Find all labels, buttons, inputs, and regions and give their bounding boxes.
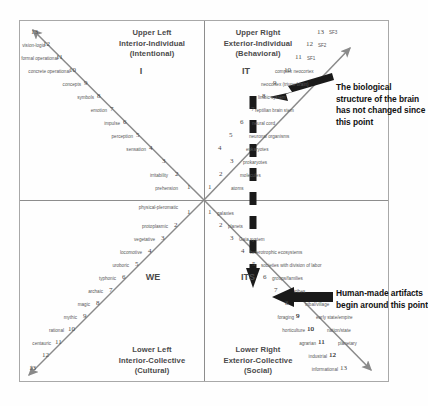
ur-label-neuronal-organisms: neuronal organisms xyxy=(249,134,289,139)
ul-num-8: 8 xyxy=(97,92,101,100)
lr-left-label-horticulture: horticulture xyxy=(237,328,305,333)
lr-num-7: 7 xyxy=(274,286,278,294)
ll-num-8: 8 xyxy=(96,299,100,307)
ul-label-vision-logic: vision-logic xyxy=(0,43,45,48)
ll-num-7: 7 xyxy=(109,286,113,294)
ll-label-locomotive: locomotive xyxy=(64,250,142,255)
lr-label-early-state-empire: early state/empire xyxy=(316,315,353,320)
ur-num-6: 6 xyxy=(240,118,244,126)
quadrant-pronoun-it: IT xyxy=(234,66,258,76)
ur-label-sf3: SF3 xyxy=(329,30,337,35)
ur-label-sf2: SF2 xyxy=(318,43,326,48)
ur-num-4: 4 xyxy=(218,144,222,152)
ul-num-7: 7 xyxy=(110,105,114,113)
ul-num-3: 3 xyxy=(162,157,166,165)
ul-num-5: 5 xyxy=(136,131,140,139)
ll-label-vegetative: vegetative xyxy=(77,237,155,242)
ur-label-complex-neocortex: complex neocortex xyxy=(275,69,314,74)
ll-name: Interior-Collective xyxy=(100,356,204,367)
ul-num-10: 10 xyxy=(69,66,76,74)
ll-label-physical-pleromatic: physical-pleromatic xyxy=(100,205,178,210)
ul-num-9: 9 xyxy=(84,79,88,87)
lr-label-heterotrophic-ecosystems: heterotrophic ecosystems xyxy=(250,250,302,255)
lr-left-num-10: 10 xyxy=(307,325,314,333)
ll-num-13: 13 xyxy=(29,364,36,372)
ur-label-limbic-system: limbic system xyxy=(258,95,286,100)
ur-num-7: 7 xyxy=(251,105,255,113)
ur-label-prokaryotes: prokaryotes xyxy=(243,160,267,165)
ul-name: Interior-Individual xyxy=(100,39,204,50)
quadrant-heading-upper-left: Upper Left Interior-Individual (Intentio… xyxy=(100,28,204,60)
ll-num-12: 12 xyxy=(42,351,49,359)
ur-label-molecules: molecules xyxy=(240,173,261,178)
ur-label-eukaryotes: eukaryotes xyxy=(246,147,268,152)
quadrant-pronoun-i: I xyxy=(130,66,152,76)
lr-left-num-11: 11 xyxy=(318,338,325,346)
ul-position: Upper Left xyxy=(100,28,204,39)
ll-label-rational: rational xyxy=(0,328,64,333)
ll-num-9: 9 xyxy=(83,312,87,320)
quadrant-heading-lower-left: Lower Left Interior-Collective (Cultural… xyxy=(100,345,204,377)
callout-biological-text: The biological structure of the brain ha… xyxy=(336,82,428,128)
ll-num-1: 1 xyxy=(187,208,191,216)
lr-label-gaia-system: Gaia system xyxy=(239,237,265,242)
lr-left-label-agrarian: agrarian xyxy=(248,341,316,346)
lr-num-5: 5 xyxy=(252,260,256,268)
ur-num-3: 3 xyxy=(230,157,234,165)
lr-left-num-13: 13 xyxy=(340,364,347,372)
ll-label-mythic: mythic xyxy=(0,315,77,320)
lr-label-societies-division-labor: societies with division of labor xyxy=(261,263,322,268)
lr-num-4: 4 xyxy=(241,247,245,255)
ul-label-sensation: sensation xyxy=(72,147,146,152)
lr-label-galaxies: galaxies xyxy=(217,211,234,216)
lr-num-8: 8 xyxy=(285,299,289,307)
ur-name: Exterior-Individual xyxy=(206,39,310,50)
ul-label-impulse: impulse xyxy=(46,121,120,126)
ul-label-symbols: symbols xyxy=(20,95,94,100)
ur-num-2: 2 xyxy=(219,170,223,178)
ur-position: Upper Right xyxy=(206,28,310,39)
lr-num-2: 2 xyxy=(219,221,223,229)
ul-label-concrete-operational: concrete operational xyxy=(0,69,70,74)
ur-num-5: 5 xyxy=(229,131,233,139)
ul-mode: (Intentional) xyxy=(100,49,204,60)
ul-label-irritability: irritability xyxy=(90,173,168,178)
ll-label-typhonic: typhonic xyxy=(38,276,116,281)
lr-label-tribes: tribes xyxy=(294,289,305,294)
callout-artifacts-text: Human-made artifacts begin around this p… xyxy=(336,288,428,311)
quadrant-pronoun-we: WE xyxy=(138,272,168,282)
ur-label-neural-cord: neural cord xyxy=(252,121,275,126)
ul-label-emotion: emotion xyxy=(33,108,107,113)
lr-left-label-informational: informational xyxy=(270,367,338,372)
ll-position: Lower Left xyxy=(100,345,204,356)
ll-num-3: 3 xyxy=(161,234,165,242)
ul-num-1: 1 xyxy=(187,183,191,191)
lr-left-label-industrial: industrial xyxy=(259,354,327,359)
ul-num-2: 2 xyxy=(175,170,179,178)
ul-num-6: 6 xyxy=(123,118,127,126)
ll-num-4: 4 xyxy=(148,247,152,255)
ll-label-centauric: centauric xyxy=(0,341,51,346)
ul-label-formal-operational: formal operational xyxy=(0,56,58,61)
ul-num-13: 13 xyxy=(31,28,38,36)
ur-num-1: 1 xyxy=(208,183,212,191)
ll-num-10: 10 xyxy=(68,325,75,333)
ur-num-13: 13 xyxy=(317,28,324,36)
ll-mode: (Cultural) xyxy=(100,366,204,377)
ll-num-2: 2 xyxy=(174,221,178,229)
ll-label-protoplasmic: protoplasmic xyxy=(90,224,168,229)
lr-label-tribal-village: tribal/village xyxy=(305,302,329,307)
ll-num-11: 11 xyxy=(55,338,62,346)
diagram-canvas: Upper Left Interior-Individual (Intentio… xyxy=(0,0,428,406)
lr-num-1: 1 xyxy=(208,208,212,216)
ll-num-5: 5 xyxy=(135,260,139,268)
lr-left-num-9: 9 xyxy=(296,312,300,320)
lr-label-nation-state: nation/state xyxy=(327,328,351,333)
lr-label-planetary: planetary xyxy=(338,341,357,346)
ll-label-archaic: archaic xyxy=(25,289,103,294)
ur-label-neocortex: neocortex (triune brain) xyxy=(261,82,309,87)
ll-label-magic: magic xyxy=(12,302,90,307)
ll-label-uroboric: uroboric xyxy=(51,263,129,268)
ll-num-6: 6 xyxy=(122,273,126,281)
lr-num-3: 3 xyxy=(230,234,234,242)
